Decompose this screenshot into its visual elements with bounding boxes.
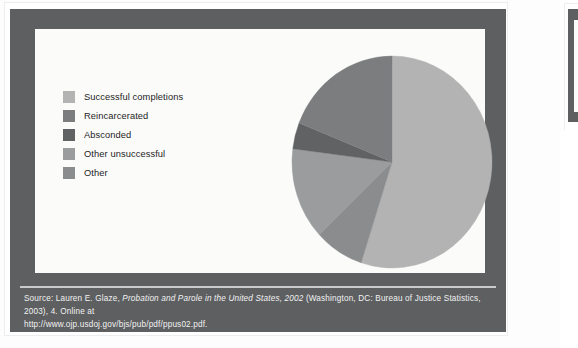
figure-frame: Successful completions Reincarcerated Ab… <box>10 9 506 332</box>
chart-panel: Successful completions Reincarcerated Ab… <box>35 29 485 273</box>
legend-swatch-icon <box>63 110 75 122</box>
legend-swatch-icon <box>63 91 75 103</box>
caption-divider <box>20 286 496 288</box>
scanned-page: Successful completions Reincarcerated Ab… <box>0 0 578 348</box>
legend-item-label: Absconded <box>84 130 131 140</box>
legend-item-label: Successful completions <box>84 92 183 102</box>
legend-item-label: Reincarcerated <box>84 111 148 121</box>
legend-item-absconded[interactable]: Absconded <box>63 125 238 144</box>
pie-chart <box>290 55 495 270</box>
legend-swatch-icon <box>63 148 75 160</box>
adjacent-page-sliver <box>560 0 578 348</box>
legend-item-other-unsuccessful[interactable]: Other unsuccessful <box>63 144 238 163</box>
legend-item-label: Other <box>84 168 108 178</box>
caption-prefix: Source: Lauren E. Glaze, <box>24 294 122 303</box>
legend-swatch-icon <box>63 129 75 141</box>
chart-legend: Successful completions Reincarcerated Ab… <box>63 87 238 182</box>
caption-title: Probation and Parole in the United State… <box>122 294 303 303</box>
pie-chart-svg <box>290 55 495 270</box>
source-caption: Source: Lauren E. Glaze, Probation and P… <box>24 292 492 331</box>
legend-item-successful-completions[interactable]: Successful completions <box>63 87 238 106</box>
legend-item-other[interactable]: Other <box>63 163 238 182</box>
caption-url[interactable]: http://www.ojp.usdoj.gov/bjs/pub/pdf/ppu… <box>24 318 492 331</box>
legend-item-label: Other unsuccessful <box>84 149 165 159</box>
legend-item-reincarcerated[interactable]: Reincarcerated <box>63 106 238 125</box>
adjacent-chart-panel <box>574 20 578 112</box>
pie-slice-group <box>292 56 492 268</box>
legend-swatch-icon <box>63 167 75 179</box>
